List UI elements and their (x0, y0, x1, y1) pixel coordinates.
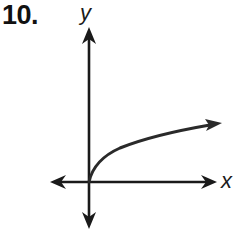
function-curve (89, 119, 222, 182)
x-axis (50, 175, 217, 189)
coordinate-graph (0, 0, 246, 231)
y-axis (82, 27, 96, 229)
